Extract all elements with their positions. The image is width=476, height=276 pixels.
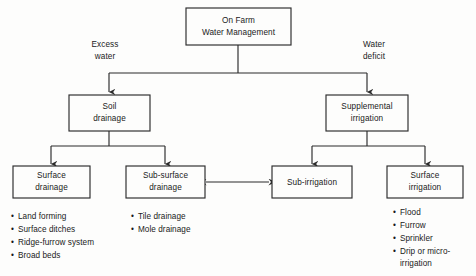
node-label-line2: Water Management <box>202 28 276 37</box>
list-item: • Flood <box>393 208 421 217</box>
flow-chart-canvas: On Farm Water Management Excess water Wa… <box>0 0 476 276</box>
node-label-line2: irrigation <box>409 183 442 192</box>
list-item-label: Mole drainage <box>138 225 191 234</box>
list-item: • Drip or micro- irrigation <box>393 247 451 268</box>
bullet-mark-icon: • <box>131 212 134 221</box>
bullet-mark-icon: • <box>393 208 396 217</box>
list-item-label: Sprinkler <box>400 234 433 243</box>
bullet-mark-icon: • <box>11 238 14 247</box>
node-box <box>186 8 291 45</box>
list-item-label: Broad beds <box>18 251 60 260</box>
node-supplemental-irrigation[interactable]: Supplemental irrigation <box>326 95 408 131</box>
list-item: • Land forming <box>11 212 67 221</box>
node-label-line1: Sub-irrigation <box>287 178 337 187</box>
bullet-list-surface-drainage: • Land forming • Surface ditches • Ridge… <box>11 212 94 260</box>
branch-label-line2: deficit <box>363 52 386 61</box>
bullet-list-surface-irrigation: • Flood • Furrow • Sprinkler • Drip or m… <box>393 208 451 268</box>
list-item-label: Furrow <box>400 221 426 230</box>
node-label-line1: Supplemental <box>341 102 392 111</box>
node-label-line1: Surface <box>37 171 66 180</box>
list-item: • Furrow <box>393 221 426 230</box>
list-item: • Sprinkler <box>393 234 433 243</box>
node-label-line1: Sub-surface <box>143 171 189 180</box>
node-label-line1: On Farm <box>222 16 255 25</box>
node-on-farm-water-management[interactable]: On Farm Water Management <box>186 8 291 45</box>
branch-label-excess-water: Excess water <box>92 40 119 61</box>
list-item-label: Flood <box>400 208 421 217</box>
list-item: • Tile drainage <box>131 212 186 221</box>
list-item-label: Ridge-furrow system <box>18 238 94 247</box>
bullet-list-sub-surface-drainage: • Tile drainage • Mole drainage <box>131 212 191 234</box>
node-label-line1: Surface <box>411 171 440 180</box>
node-box <box>69 95 150 131</box>
list-item: • Ridge-furrow system <box>11 238 94 247</box>
list-item-label: Land forming <box>18 212 67 221</box>
branch-label-line1: Excess <box>92 40 119 49</box>
bullet-mark-icon: • <box>11 212 14 221</box>
bullet-mark-icon: • <box>393 221 396 230</box>
list-item-label: Surface ditches <box>18 225 75 234</box>
node-label-line1: Soil <box>102 102 116 111</box>
node-label-line2: drainage <box>35 183 68 192</box>
branch-label-line2: water <box>94 52 116 61</box>
list-item-label: Drip or micro- <box>400 247 451 256</box>
branch-label-line1: Water <box>363 40 385 49</box>
list-item-label-continued: irrigation <box>400 259 432 268</box>
node-label-line2: drainage <box>93 114 126 123</box>
flow-chart-diagram: On Farm Water Management Excess water Wa… <box>0 0 476 276</box>
node-box <box>326 95 408 131</box>
bullet-mark-icon: • <box>393 234 396 243</box>
list-item: • Broad beds <box>11 251 60 260</box>
list-item: • Mole drainage <box>131 225 191 234</box>
bullet-mark-icon: • <box>11 225 14 234</box>
bullet-mark-icon: • <box>11 251 14 260</box>
node-label-line2: drainage <box>149 183 182 192</box>
node-sub-surface-drainage[interactable]: Sub-surface drainage <box>126 166 205 198</box>
bullet-mark-icon: • <box>393 247 396 256</box>
node-label-line2: irrigation <box>351 114 384 123</box>
branch-label-water-deficit: Water deficit <box>363 40 386 61</box>
node-surface-drainage[interactable]: Surface drainage <box>13 166 90 198</box>
bullet-mark-icon: • <box>131 225 134 234</box>
list-item-label: Tile drainage <box>138 212 186 221</box>
list-item: • Surface ditches <box>11 225 75 234</box>
node-sub-irrigation[interactable]: Sub-irrigation <box>272 166 352 198</box>
node-surface-irrigation[interactable]: Surface irrigation <box>387 166 463 198</box>
node-soil-drainage[interactable]: Soil drainage <box>69 95 150 131</box>
